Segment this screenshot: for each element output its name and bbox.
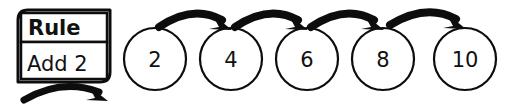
rule-card-title: Rule [28, 16, 81, 40]
number-pattern-diagram: Rule Add 2 2 4 6 8 10 [0, 0, 506, 105]
sequence-node-label: 2 [148, 48, 161, 72]
sequence-node-label: 6 [300, 48, 313, 72]
sequence-node-label: 10 [452, 48, 479, 72]
sequence-node-label: 8 [376, 48, 389, 72]
rule-card-operation: Add 2 [27, 52, 88, 76]
diagram-text-layer: Rule Add 2 2 4 6 8 10 [0, 0, 506, 105]
sequence-node-label: 4 [224, 48, 237, 72]
